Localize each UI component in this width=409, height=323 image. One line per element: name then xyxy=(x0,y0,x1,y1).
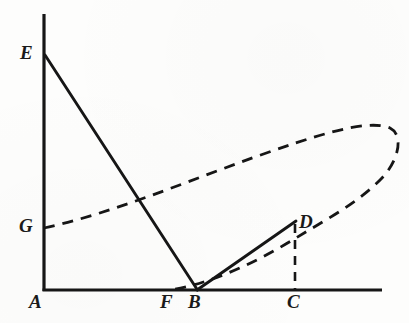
point-label-D: D xyxy=(299,212,313,231)
point-label-B: B xyxy=(188,292,201,311)
curve-loop xyxy=(44,125,398,290)
point-label-G: G xyxy=(19,216,33,235)
segment-BD xyxy=(197,221,296,290)
point-label-E: E xyxy=(20,43,33,62)
segment-EB xyxy=(45,55,198,290)
point-label-C: C xyxy=(287,292,300,311)
point-label-F: F xyxy=(160,292,173,311)
geometry-figure: E G A F B C D xyxy=(0,0,409,323)
point-label-A: A xyxy=(29,292,42,311)
figure-canvas xyxy=(0,0,409,323)
